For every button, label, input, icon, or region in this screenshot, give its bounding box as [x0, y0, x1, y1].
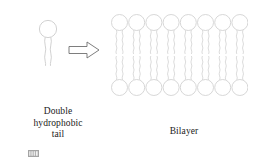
- bilayer-head-top: [198, 15, 214, 31]
- bilayer-tail-bottom-right: [157, 56, 158, 80]
- bilayer-tail-top-right: [122, 30, 123, 54]
- lipid-tail-right: [50, 37, 51, 66]
- bilayer-tail-top-right: [225, 30, 226, 54]
- bilayer-tail-bottom-left: [116, 56, 117, 80]
- bilayer-tail-bottom-left: [236, 56, 237, 80]
- figure-canvas: Double hydrophobic tail Bilayer: [0, 0, 254, 158]
- corner-artifact-mark: [28, 143, 39, 150]
- bilayer-tail-bottom-right: [139, 56, 140, 80]
- bilayer-tail-top-right: [157, 30, 158, 54]
- bilayer-tail-top-left: [236, 30, 237, 54]
- bilayer-tail-top-left: [202, 30, 203, 54]
- phospholipid-monomer: [36, 18, 60, 72]
- bilayer-tail-top-right: [191, 30, 192, 54]
- bilayer-head-top: [163, 15, 179, 31]
- bilayer-tail-bottom-left: [133, 56, 134, 80]
- bilayer-tail-top-left: [185, 30, 186, 54]
- bilayer-head-top: [180, 15, 196, 31]
- bilayer-tail-bottom-left: [219, 56, 220, 80]
- bilayer-head-top: [146, 15, 162, 31]
- bilayer-tail-top-left: [150, 30, 151, 54]
- bilayer-head-top: [215, 15, 231, 31]
- bilayer-head-bottom: [146, 80, 162, 96]
- bilayer-head-top: [232, 15, 248, 31]
- block-arrow-right-icon: [69, 42, 99, 58]
- bilayer-head-bottom: [215, 80, 231, 96]
- bilayer-tail-bottom-right: [174, 56, 175, 80]
- caption-double-hydrophobic-tail: Double hydrophobic tail: [6, 106, 110, 141]
- bilayer-tail-bottom-right: [208, 56, 209, 80]
- bilayer-head-bottom: [180, 80, 196, 96]
- bilayer-tail-top-left: [219, 30, 220, 54]
- bilayer-tail-top-right: [174, 30, 175, 54]
- transform-arrow: [68, 40, 100, 60]
- bilayer-head-bottom: [198, 80, 214, 96]
- bilayer-head-top: [129, 15, 145, 31]
- lipid-bilayer: [110, 13, 248, 97]
- bilayer-head-bottom: [129, 80, 145, 96]
- lipid-head-circle-icon: [39, 20, 56, 37]
- bilayer-tail-top-right: [139, 30, 140, 54]
- lipid-tail-left: [45, 37, 46, 66]
- bilayer-tail-bottom-right: [122, 56, 123, 80]
- bilayer-tail-bottom-left: [202, 56, 203, 80]
- bilayer-tail-top-left: [168, 30, 169, 54]
- bilayer-head-top: [112, 15, 128, 31]
- bilayer-tail-bottom-left: [185, 56, 186, 80]
- bilayer-tail-top-right: [208, 30, 209, 54]
- bilayer-head-bottom: [112, 80, 128, 96]
- bilayer-tail-bottom-left: [168, 56, 169, 80]
- caption-bilayer: Bilayer: [136, 126, 232, 138]
- bilayer-svg: [110, 13, 248, 97]
- bilayer-head-bottom: [232, 80, 248, 96]
- bilayer-tail-top-left: [116, 30, 117, 54]
- bilayer-tail-top-left: [133, 30, 134, 54]
- bilayer-tail-bottom-right: [225, 56, 226, 80]
- bilayer-tail-bottom-left: [150, 56, 151, 80]
- bilayer-head-bottom: [163, 80, 179, 96]
- bilayer-tail-top-right: [243, 30, 244, 54]
- bilayer-tail-bottom-right: [243, 56, 244, 80]
- bilayer-tail-bottom-right: [191, 56, 192, 80]
